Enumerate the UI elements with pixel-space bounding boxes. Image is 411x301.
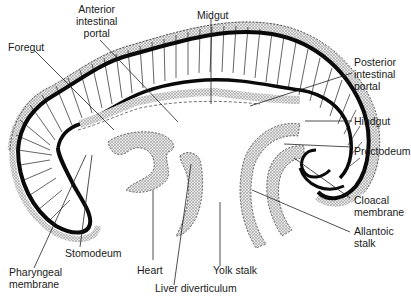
label-proctodeum: Proctodeum <box>354 145 411 157</box>
liver-diverticulum <box>176 153 203 236</box>
label-midgut: Midgut <box>197 9 229 21</box>
label-yolk-stalk: Yolk stalk <box>213 264 257 276</box>
label-anterior-intestinal-portal: Anterior intestinal portal <box>76 3 117 39</box>
label-hindgut: Hindgut <box>354 115 390 127</box>
label-liver-diverticulum: Liver diverticulum <box>155 282 237 294</box>
label-posterior-intestinal-portal: Posterior intestinal portal <box>354 56 396 92</box>
heart <box>108 132 174 193</box>
label-foregut: Foregut <box>8 41 44 53</box>
label-heart: Heart <box>137 264 163 276</box>
label-stomodeum: Stomodeum <box>65 247 122 259</box>
label-pharyngeal-membrane: Pharyngeal membrane <box>9 266 62 290</box>
label-cloacal-membrane: Cloacal membrane <box>354 194 404 218</box>
label-allantoic-stalk: Allantoic stalk <box>354 225 394 249</box>
